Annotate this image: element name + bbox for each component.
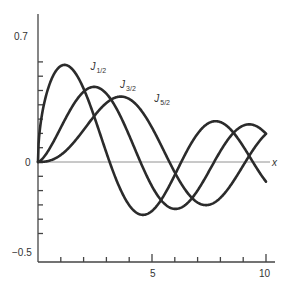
curve-1-2 (38, 65, 266, 215)
curve-3-2 (38, 87, 266, 209)
series-label-5-2: J5/2 (153, 93, 170, 106)
series-label-1-2: J1/2 (89, 61, 106, 74)
x-ticks (61, 254, 266, 262)
y-tick-label-0: 0 (25, 157, 31, 168)
x-axis-name: x (271, 157, 278, 168)
series-label-3-2: J3/2 (119, 79, 136, 92)
x-tick-label-5: 5 (150, 268, 156, 279)
y-tick-label-neg-0-5: −0.5 (12, 247, 32, 258)
x-tick-label-10: 10 (259, 268, 271, 279)
y-tick-label-0-7: 0.7 (14, 31, 28, 42)
curves (38, 65, 266, 215)
bessel-chart: 0.7 0 −0.5 5 10 x J1/2J3/2J5/2 (0, 0, 302, 291)
